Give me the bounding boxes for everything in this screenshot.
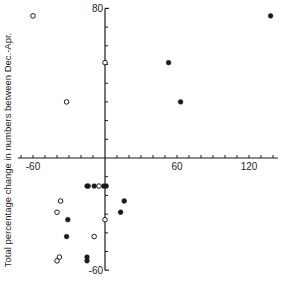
filled-point — [92, 184, 97, 189]
filled-point — [122, 199, 127, 204]
open-point — [58, 199, 63, 204]
open-point — [92, 234, 97, 239]
filled-point — [118, 210, 123, 215]
filled-point — [178, 100, 183, 105]
open-point — [103, 217, 108, 222]
open-point — [31, 14, 36, 19]
ticks — [21, 27, 273, 251]
open-point — [97, 184, 102, 189]
x-tick-label: -60 — [26, 161, 41, 172]
tick-labels: -606012080-60 — [26, 3, 258, 276]
filled-point — [86, 184, 91, 189]
open-point — [55, 210, 60, 215]
filled-point — [65, 217, 70, 222]
y-tick-label: 80 — [92, 3, 104, 14]
data-points — [31, 13, 273, 263]
filled-point — [64, 234, 69, 239]
axes — [18, 8, 278, 270]
y-axis-label: Total percentage change in numbers betwe… — [2, 33, 13, 267]
filled-point — [85, 258, 90, 263]
open-point — [55, 259, 60, 264]
y-tick-label: -60 — [89, 265, 104, 276]
filled-point — [268, 13, 273, 18]
open-point — [103, 60, 108, 65]
filled-point — [104, 184, 109, 189]
scatter-chart: -606012080-60 Total percentage change in… — [0, 0, 282, 284]
filled-point — [166, 60, 171, 65]
x-tick-label: 120 — [241, 161, 258, 172]
x-tick-label: 60 — [171, 161, 183, 172]
open-point — [64, 100, 69, 105]
